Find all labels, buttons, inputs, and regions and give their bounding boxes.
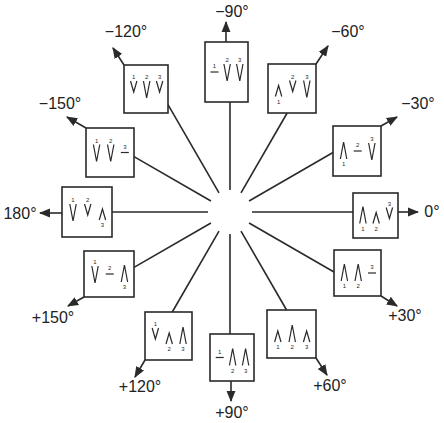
peak-box-m120: 123 (124, 65, 168, 113)
arrow-icon (135, 360, 145, 377)
spoke-m60 (241, 113, 287, 193)
arrow-icon (316, 46, 328, 64)
angle-label-m30: −30° (401, 95, 435, 113)
peak-box-p0: 123 (353, 193, 398, 238)
peak-box-p60: 123 (267, 310, 316, 358)
angle-label-p150: +150° (32, 309, 74, 327)
peak-box-m150: 123 (86, 128, 134, 177)
peak-box-m30: 123 (333, 126, 381, 176)
angle-polarity-diagram: 123123123123123123123123123123123123 −90… (0, 0, 444, 423)
peak-box-m60: 123 (268, 64, 316, 113)
arrow-icon (68, 297, 84, 306)
arrow-icon (381, 296, 397, 306)
spoke-m150 (134, 157, 211, 201)
arrow-icon (381, 117, 397, 126)
angle-label-p60: +60° (313, 377, 347, 395)
spoke-m30 (249, 153, 333, 201)
peak-box-p120: 123 (145, 312, 192, 360)
peak-box-p30: 123 (334, 250, 381, 296)
peak-box-p150: 123 (84, 251, 134, 297)
angle-label-m60: −60° (331, 23, 365, 41)
spoke-p150 (134, 223, 211, 267)
diagram-canvas: 123123123123123123123123123123123123 (0, 0, 444, 423)
arrow-icon (67, 117, 86, 128)
angle-label-m150: −150° (39, 95, 81, 113)
arrow-icon (316, 358, 327, 375)
peak-box-p90: 123 (210, 334, 254, 381)
angle-label-p90: +90° (215, 404, 249, 422)
angle-label-p30: +30° (388, 307, 422, 325)
peak-box-m90: 123 (205, 42, 248, 102)
spoke-p60 (241, 231, 287, 310)
angle-label-p180: 180° (3, 205, 36, 223)
angle-label-m90: −90° (215, 3, 249, 21)
spoke-p30 (249, 223, 334, 272)
spokes (112, 102, 353, 334)
peak-box-p180: 123 (62, 187, 112, 237)
spoke-p120 (172, 231, 219, 312)
angle-label-p120: +120° (119, 378, 161, 396)
angle-label-p0: 0° (424, 203, 439, 221)
arrow-icon (113, 48, 124, 65)
angle-label-m120: −120° (105, 23, 147, 41)
